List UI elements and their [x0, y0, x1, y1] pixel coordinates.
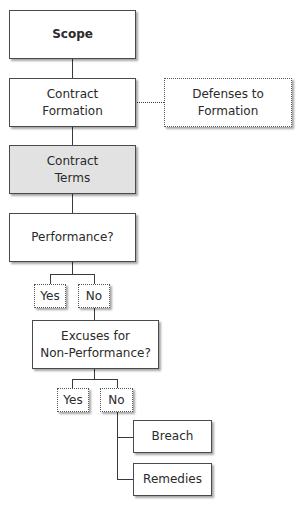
node-contract-terms: Contract Terms [9, 145, 136, 194]
connector-performance-branch [72, 261, 73, 274]
connector-excuses-branch-bar [72, 379, 118, 380]
connector-branch-yes [50, 274, 51, 284]
node-contract-formation: Contract Formation [9, 78, 136, 127]
node-performance: Performance? [9, 213, 136, 262]
connector-branch2-yes [72, 379, 73, 388]
node-breach: Breach [133, 420, 212, 453]
node-performance-no: No [78, 284, 110, 308]
connector-performance-branch-bar [50, 274, 95, 275]
node-performance-yes: Yes [34, 284, 66, 308]
connector-to-breach [117, 437, 133, 438]
connector-branch2-no [117, 379, 118, 388]
connector-terms-performance [72, 193, 73, 213]
node-excuses-no: No [100, 388, 133, 412]
connector-no-excuses [94, 308, 95, 320]
connector-no-outcomes [117, 411, 118, 480]
connector-formation-terms [72, 126, 73, 145]
connector-scope-formation [72, 58, 73, 78]
node-defenses-to-formation: Defenses to Formation [164, 78, 292, 127]
connector-excuses-branch [94, 368, 95, 379]
connector-to-remedies [117, 479, 133, 480]
connector-branch-no [94, 274, 95, 284]
node-excuses-for-non-performance: Excuses for Non-Performance? [32, 320, 159, 369]
node-scope: Scope [9, 10, 136, 59]
node-remedies: Remedies [133, 463, 212, 496]
node-excuses-yes: Yes [57, 388, 89, 412]
connector-formation-defenses [135, 102, 164, 103]
